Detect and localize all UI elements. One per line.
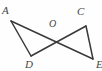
vertex-label-o: O	[49, 18, 56, 29]
vertex-label-a: A	[2, 5, 9, 16]
geometry-figure: A C O D E	[0, 0, 102, 71]
figure-canvas	[0, 0, 102, 71]
vertex-label-c: C	[77, 6, 84, 17]
vertex-label-e: E	[96, 59, 102, 70]
vertex-label-d: D	[25, 59, 33, 70]
segment-c-e	[86, 26, 93, 59]
